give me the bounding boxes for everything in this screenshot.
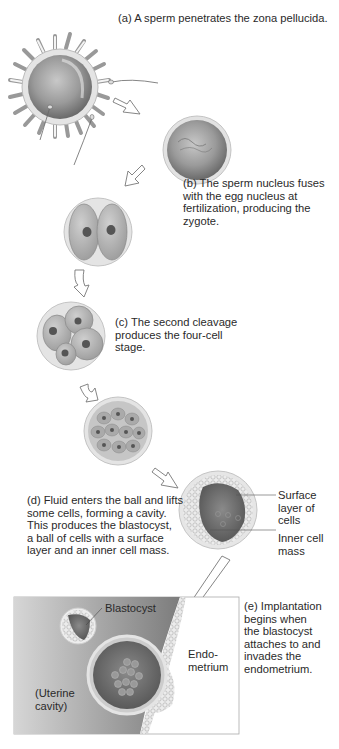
label-blastocyst: Blastocyst: [105, 602, 156, 615]
four-cell-embryo: [37, 302, 105, 370]
morula: [84, 397, 152, 465]
caption-c: (c) The second cleavage produces the fou…: [115, 316, 237, 354]
egg-with-corona: [10, 34, 158, 165]
label-inner-cell-mass: Inner cell mass: [278, 532, 323, 557]
label-surface-layer: Surface layer of cells: [278, 489, 317, 527]
two-cell-embryo: [64, 198, 132, 266]
label-endometrium: Endo- metrium: [188, 648, 228, 673]
caption-d: (d) Fluid enters the ball and lifts some…: [27, 494, 183, 557]
zygote: [163, 116, 231, 184]
label-uterine-cavity: (Uterine cavity): [35, 687, 75, 712]
caption-a: (a) A sperm penetrates the zona pellucid…: [118, 12, 328, 25]
caption-b: (b) The sperm nucleus fuses with the egg…: [183, 177, 325, 227]
blastocyst: [179, 471, 276, 549]
caption-e: (e) Implantation begins when the blastoc…: [244, 600, 322, 676]
